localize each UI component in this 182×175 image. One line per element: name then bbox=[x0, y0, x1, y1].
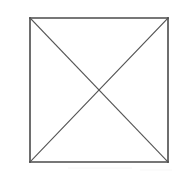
figure-canvas: A plain square outline containing two st… bbox=[0, 0, 182, 175]
square-with-diagonals-svg bbox=[0, 0, 182, 175]
